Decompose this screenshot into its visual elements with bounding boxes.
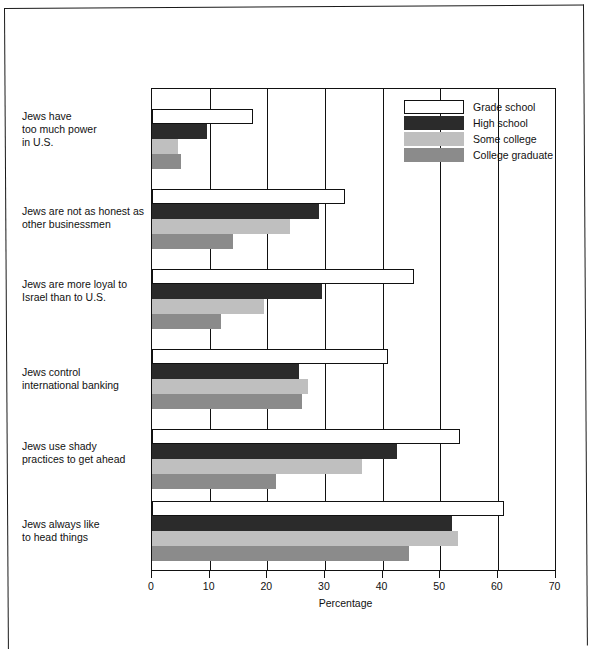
bar-some	[152, 459, 362, 474]
category-label-line: Jews are more loyal to	[22, 278, 147, 291]
gridline-40	[383, 89, 384, 570]
legend-swatch	[404, 116, 464, 130]
bar-grad	[152, 394, 302, 409]
gridline-10	[210, 89, 211, 570]
legend-item: High school	[404, 115, 569, 130]
category-label-line: international banking	[22, 379, 147, 392]
category-label: Jews controlinternational banking	[22, 366, 147, 392]
figure-caption	[0, 622, 591, 628]
bar-high	[152, 516, 452, 531]
x-tick-label-0: 0	[136, 580, 166, 592]
category-label-line: Jews are not as honest as	[22, 205, 147, 218]
legend-label: College graduate	[473, 149, 553, 161]
x-tick-label-40: 40	[367, 580, 397, 592]
x-tick-60	[497, 571, 498, 578]
category-label-line: practices to get ahead	[22, 453, 147, 466]
x-tick-label-30: 30	[309, 580, 339, 592]
bar-some	[152, 379, 308, 394]
bar-some	[152, 531, 458, 546]
bar-grade	[152, 109, 253, 124]
gridline-30	[325, 89, 326, 570]
bar-grad	[152, 546, 409, 561]
category-label: Jews are more loyal toIsrael than to U.S…	[22, 278, 147, 304]
bar-high	[152, 444, 397, 459]
bar-grade	[152, 189, 345, 204]
legend-swatch	[404, 100, 464, 114]
gridline-20	[267, 89, 268, 570]
category-label: Jews havetoo much powerin U.S.	[22, 110, 147, 149]
bar-high	[152, 284, 322, 299]
bar-high	[152, 364, 299, 379]
bar-grad	[152, 234, 233, 249]
x-tick-0	[151, 571, 152, 578]
x-axis-label: Percentage	[0, 597, 591, 609]
x-tick-20	[266, 571, 267, 578]
x-tick-label-60: 60	[482, 580, 512, 592]
chart-legend: Grade schoolHigh schoolSome collegeColle…	[404, 99, 569, 163]
legend-label: Grade school	[473, 101, 535, 113]
category-label-line: to head things	[22, 531, 147, 544]
bar-some	[152, 299, 264, 314]
legend-item: Some college	[404, 131, 569, 146]
bar-grade	[152, 501, 504, 516]
bar-grade	[152, 429, 460, 444]
category-label-line: other businessmen	[22, 218, 147, 231]
legend-item: Grade school	[404, 99, 569, 114]
legend-swatch	[404, 132, 464, 146]
bar-grade	[152, 349, 388, 364]
category-label: Jews are not as honest asother businessm…	[22, 205, 147, 231]
category-label-line: Jews have	[22, 110, 147, 123]
category-label: Jews always liketo head things	[22, 518, 147, 544]
x-tick-label-10: 10	[194, 580, 224, 592]
category-label-line: in U.S.	[22, 136, 147, 149]
x-tick-label-70: 70	[540, 580, 570, 592]
category-label: Jews use shadypractices to get ahead	[22, 440, 147, 466]
x-tick-30	[324, 571, 325, 578]
category-label-line: Jews always like	[22, 518, 147, 531]
bar-grade	[152, 269, 414, 284]
category-label-line: Israel than to U.S.	[22, 291, 147, 304]
bar-some	[152, 219, 290, 234]
bar-grad	[152, 474, 276, 489]
bar-some	[152, 139, 178, 154]
x-tick-label-20: 20	[251, 580, 281, 592]
x-tick-40	[382, 571, 383, 578]
bar-high	[152, 124, 207, 139]
x-tick-50	[439, 571, 440, 578]
x-tick-label-50: 50	[424, 580, 454, 592]
legend-swatch	[404, 148, 464, 162]
bar-grad	[152, 154, 181, 169]
x-axis-label-text: Percentage	[319, 597, 373, 609]
legend-label: High school	[473, 117, 528, 129]
bar-grad	[152, 314, 221, 329]
category-label-line: Jews control	[22, 366, 147, 379]
category-label-line: too much power	[22, 123, 147, 136]
legend-label: Some college	[473, 133, 537, 145]
x-tick-70	[555, 571, 556, 578]
bar-high	[152, 204, 319, 219]
x-tick-10	[209, 571, 210, 578]
legend-item: College graduate	[404, 147, 569, 162]
category-label-line: Jews use shady	[22, 440, 147, 453]
